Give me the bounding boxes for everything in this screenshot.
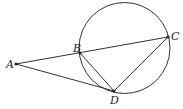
label-c: C [171,30,180,43]
segment-ad [16,64,114,91]
label-d: D [109,94,119,107]
segment-bd [80,53,114,91]
point-c [166,35,169,38]
geometry-diagram: A B C D [0,0,183,109]
point-d [112,89,115,92]
label-a: A [5,58,14,71]
label-b: B [72,42,81,55]
point-a [14,62,17,65]
